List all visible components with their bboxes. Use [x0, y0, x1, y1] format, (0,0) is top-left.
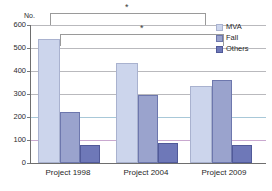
legend-swatch-fall-icon [216, 35, 223, 42]
y-tick-label-200: 200 [2, 113, 26, 120]
bar-chart: No. 600 500 400 300 200 100 0 [0, 0, 272, 191]
bar-others-project-1998 [80, 145, 100, 163]
gridline-400 [31, 71, 266, 72]
legend-swatch-others-icon [216, 46, 223, 53]
x-axis-label-project-1998: Project 1998 [27, 168, 109, 177]
significance-bracket-lower [60, 34, 224, 46]
legend: MVA Fall Others [216, 22, 249, 55]
y-tick-label-300: 300 [2, 90, 26, 97]
significance-star-top: * [125, 3, 129, 12]
legend-label-mva: MVA [226, 23, 242, 31]
legend-label-others: Others [226, 45, 249, 53]
y-axis-line [30, 25, 31, 164]
bar-fall-project-1998 [60, 112, 80, 163]
legend-label-fall: Fall [226, 34, 238, 42]
bar-mva-project-2004 [116, 63, 138, 163]
x-axis-label-project-2009: Project 2009 [183, 168, 265, 177]
bar-others-project-2009 [232, 145, 252, 163]
y-tick-label-600: 600 [2, 21, 26, 28]
x-axis-label-project-2004: Project 2004 [105, 168, 187, 177]
y-axis-title: No. [24, 12, 35, 19]
bar-fall-project-2004 [138, 95, 158, 163]
bar-mva-project-1998 [38, 39, 60, 163]
legend-item-others: Others [216, 44, 249, 54]
bar-mva-project-2009 [190, 86, 212, 163]
bar-fall-project-2009 [212, 80, 232, 163]
y-tick-label-400: 400 [2, 67, 26, 74]
y-tick-label-100: 100 [2, 136, 26, 143]
legend-item-mva: MVA [216, 22, 249, 32]
legend-item-fall: Fall [216, 33, 249, 43]
y-tick-label-0: 0 [2, 159, 26, 166]
legend-swatch-mva-icon [216, 24, 223, 31]
bar-others-project-2004 [158, 143, 178, 163]
significance-bracket-top [50, 13, 206, 25]
y-tick-label-500: 500 [2, 44, 26, 51]
significance-star-lower: * [140, 24, 144, 33]
x-axis-line [30, 163, 266, 164]
